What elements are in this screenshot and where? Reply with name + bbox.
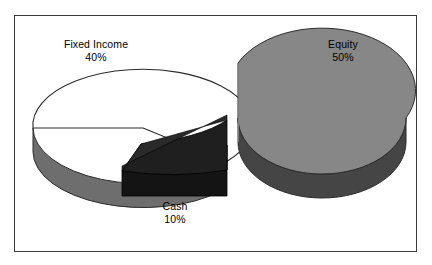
slice-label-equity-name: Equity	[288, 38, 398, 51]
slice-label-fixed-income-name: Fixed Income	[36, 38, 156, 51]
pie-slice-equity-cut-face	[238, 63, 239, 142]
slice-label-equity-value: 50%	[288, 51, 398, 64]
slice-label-cash-value: 10%	[122, 213, 228, 226]
slice-label-fixed-income-value: 40%	[36, 51, 156, 64]
slice-label-cash-name: Cash	[122, 200, 228, 213]
slice-label-equity: Equity 50%	[288, 38, 398, 64]
pie-chart-figure: Fixed Income 40% Equity 50% Cash 10%	[0, 0, 432, 265]
slice-label-cash: Cash 10%	[122, 200, 228, 226]
slice-label-fixed-income: Fixed Income 40%	[36, 38, 156, 64]
